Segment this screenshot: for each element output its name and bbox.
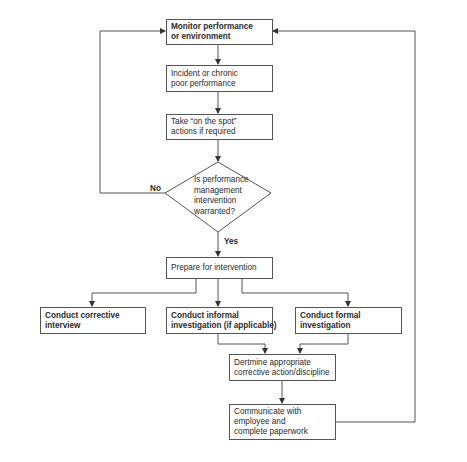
node-text: Take “on the spot” [171, 117, 268, 127]
node-text: or environment [171, 32, 268, 42]
incident-box: Incident or chronic poor performance [166, 65, 273, 92]
node-text: actions if required [171, 127, 268, 137]
node-text: Conduct informal [171, 311, 268, 321]
node-text: warranted? [194, 207, 249, 218]
corrective-interview-box: Conduct corrective interview [40, 307, 146, 334]
determine-action-box: Dertmine appropriate corrective action/d… [229, 354, 336, 381]
on-the-spot-actions-box: Take “on the spot” actions if required [166, 114, 273, 140]
no-label: No [150, 184, 161, 193]
node-text: Conduct formal [300, 311, 397, 321]
node-text: Prepare for intervention [171, 263, 268, 273]
node-text: complete paperwork [234, 427, 331, 437]
node-text: intervention [194, 196, 249, 207]
node-text: Is performance [194, 175, 249, 186]
decision-text: Is performance management intervention w… [194, 175, 249, 217]
node-text: Monitor performance [171, 22, 268, 32]
node-text: Communicate with [234, 407, 331, 417]
node-text: poor performance [171, 79, 268, 89]
node-text: Incident or chronic [171, 69, 268, 79]
node-text: Dertmine appropriate [234, 358, 331, 368]
node-text: corrective action/discipline [234, 368, 331, 378]
prepare-intervention-box: Prepare for intervention [166, 257, 273, 279]
node-text: investigation [300, 321, 397, 331]
monitor-performance-box: Monitor performance or environment [166, 19, 273, 45]
node-text: management [194, 186, 249, 197]
node-text: investigation (if applicable) [171, 321, 268, 331]
yes-label: Yes [224, 237, 238, 246]
informal-investigation-box: Conduct informal investigation (if appli… [166, 307, 273, 334]
node-text: Conduct corrective [45, 311, 141, 321]
formal-investigation-box: Conduct formal investigation [295, 307, 402, 334]
communicate-box: Communicate with employee and complete p… [229, 404, 336, 440]
node-text: employee and [234, 417, 331, 427]
node-text: interview [45, 321, 141, 331]
